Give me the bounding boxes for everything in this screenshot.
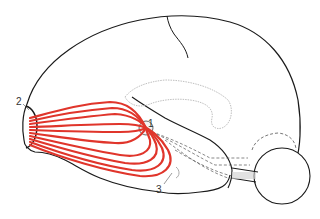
lateral-sulcus xyxy=(132,97,232,188)
cerebellum xyxy=(254,148,310,204)
central-sulcus xyxy=(167,16,188,58)
label-1: 1 xyxy=(148,119,154,129)
fiber-bundle xyxy=(30,102,170,176)
label-3: 3 xyxy=(156,185,162,195)
dashed-projections xyxy=(152,132,250,178)
label-2: 2 xyxy=(16,97,22,107)
